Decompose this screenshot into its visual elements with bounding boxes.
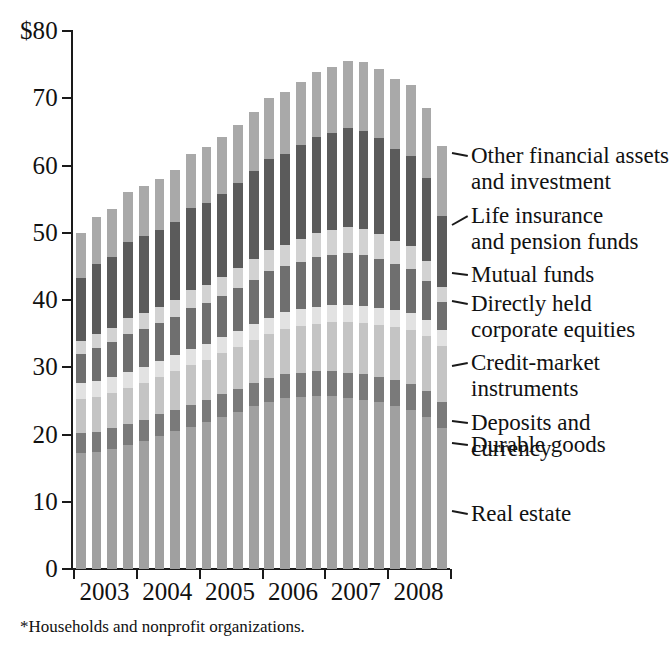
- bar-segment: [186, 290, 196, 308]
- bar[interactable]: [406, 85, 416, 569]
- bar-segment: [76, 354, 86, 383]
- bar-segment: [170, 410, 180, 432]
- bar[interactable]: [217, 137, 227, 569]
- x-axis-label: 2003: [79, 578, 129, 605]
- x-axis-tick: [199, 569, 201, 579]
- bar-segment: [217, 353, 227, 394]
- bar-segment: [217, 296, 227, 337]
- bar-segment: [155, 179, 165, 230]
- bar[interactable]: [202, 147, 212, 569]
- bar[interactable]: [296, 82, 306, 569]
- bar[interactable]: [437, 146, 447, 569]
- bar-segment: [406, 313, 416, 330]
- bar[interactable]: [155, 179, 165, 569]
- bar-segment: [249, 383, 259, 407]
- bar-segment: [202, 422, 212, 569]
- bar-segment: [312, 396, 322, 569]
- bar-segment: [280, 245, 290, 267]
- bar-segment: [437, 146, 447, 216]
- bar-segment: [155, 377, 165, 415]
- bar-segment: [390, 327, 400, 380]
- bar-segment: [123, 445, 133, 569]
- bar-segment: [406, 269, 416, 313]
- bar[interactable]: [280, 92, 290, 569]
- bar[interactable]: [107, 209, 117, 569]
- bar-segment: [296, 309, 306, 326]
- bar-segment: [76, 278, 86, 341]
- bar-segment: [374, 308, 384, 325]
- bar-segment: [233, 125, 243, 183]
- bar-segment: [343, 322, 353, 372]
- legend-leader-line: [452, 442, 468, 446]
- bar[interactable]: [233, 125, 243, 569]
- legend-label-7: Durable goods: [471, 432, 606, 458]
- bar-segment: [343, 227, 353, 253]
- bar[interactable]: [422, 108, 432, 569]
- legend-label-3: Mutual funds: [471, 262, 594, 288]
- bar-segment: [406, 156, 416, 246]
- bar[interactable]: [390, 79, 400, 569]
- bar[interactable]: [123, 192, 133, 569]
- x-axis-label: 2004: [142, 578, 192, 605]
- bar-segment: [107, 257, 117, 328]
- x-axis-tick: [450, 569, 452, 579]
- x-axis-tick: [262, 569, 264, 579]
- bar-segment: [155, 323, 165, 361]
- bar-segment: [155, 307, 165, 323]
- bar-segment: [139, 313, 149, 329]
- bar-segment: [343, 61, 353, 128]
- bar-segment: [359, 400, 369, 569]
- bar-segment: [186, 308, 196, 349]
- bar[interactable]: [139, 186, 149, 569]
- bar-segment: [437, 216, 447, 287]
- bar-segment: [139, 236, 149, 313]
- legend-leader-line: [452, 420, 468, 424]
- legend-label-4: Directly held corporate equities: [471, 291, 635, 343]
- bar-segment: [107, 209, 117, 257]
- bar[interactable]: [186, 154, 196, 569]
- bar-segment: [312, 324, 322, 372]
- bar[interactable]: [343, 61, 353, 569]
- bar-segment: [359, 62, 369, 131]
- bar[interactable]: [76, 233, 86, 569]
- bar-segment: [390, 79, 400, 149]
- bar-segment: [374, 402, 384, 569]
- bar[interactable]: [92, 217, 102, 569]
- bar-segment: [359, 229, 369, 255]
- bar-segment: [312, 307, 322, 324]
- bar-segment: [264, 250, 274, 272]
- bar[interactable]: [170, 170, 180, 569]
- bar-segment: [374, 138, 384, 234]
- bar-segment: [249, 112, 259, 171]
- bar[interactable]: [374, 69, 384, 569]
- bar-segment: [233, 412, 243, 569]
- bar-segment: [280, 92, 290, 154]
- bar[interactable]: [327, 67, 337, 569]
- x-axis-tick: [324, 569, 326, 579]
- bar-segment: [390, 380, 400, 406]
- legend-label-5: Credit-market instruments: [471, 350, 600, 402]
- y-axis-label-wrap: 10: [0, 489, 58, 514]
- x-axis-tick: [387, 569, 389, 579]
- bar-segment: [76, 433, 86, 453]
- bar-segment: [264, 98, 274, 159]
- bar-segment: [217, 394, 227, 417]
- bar-segment: [123, 192, 133, 241]
- bar-segment: [233, 183, 243, 268]
- bar-segment: [296, 262, 306, 310]
- bar-segment: [327, 396, 337, 569]
- bar[interactable]: [264, 98, 274, 569]
- bar-segment: [359, 131, 369, 230]
- bar-segment: [359, 306, 369, 323]
- bar[interactable]: [312, 72, 322, 569]
- bar-segment: [406, 384, 416, 410]
- bar-segment: [280, 329, 290, 374]
- bar-segment: [280, 374, 290, 398]
- legend-label-1: Other financial assets and investment: [471, 143, 669, 195]
- y-axis-label: 20: [2, 422, 58, 447]
- bar-segment: [312, 257, 322, 307]
- bar-segment: [202, 147, 212, 202]
- legend-leader-line: [452, 510, 468, 515]
- bar[interactable]: [249, 112, 259, 569]
- bar[interactable]: [359, 62, 369, 569]
